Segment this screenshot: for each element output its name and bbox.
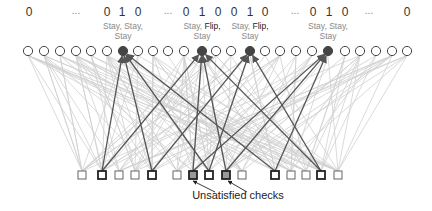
active-check-node: [317, 171, 325, 179]
variable-node: [355, 46, 364, 55]
ellipsis-label: ...: [72, 5, 80, 16]
tanner-edge: [107, 56, 135, 171]
stay-action: Stay,: [124, 21, 143, 31]
stay-action: Stay,: [103, 21, 124, 31]
check-node: [238, 171, 246, 179]
variable-node: [86, 46, 95, 55]
active-check-node: [271, 171, 279, 179]
variable-node: [102, 46, 111, 55]
stay-action: Stay,: [231, 21, 252, 31]
variable-node: [307, 46, 316, 55]
variable-node: [340, 46, 349, 55]
bit-value-label: 0: [262, 5, 269, 19]
action-labels-row: Stay, Stay,StayStay, Flip,StayStay, Flip…: [103, 21, 348, 41]
selected-variable-node: [245, 46, 254, 55]
selected-variable-node: [197, 46, 206, 55]
bit-value-label: 0: [135, 5, 142, 19]
variable-node: [148, 46, 157, 55]
variable-node: [71, 46, 80, 55]
variable-node: [39, 46, 48, 55]
variable-node: [260, 46, 269, 55]
action-label-line2: Stay: [319, 31, 337, 41]
action-label-line2: Stay: [193, 31, 211, 41]
check-node: [173, 171, 181, 179]
variable-node: [371, 46, 380, 55]
variable-node: [226, 46, 235, 55]
stay-action: Stay,: [183, 21, 204, 31]
flip-action: Flip,: [253, 21, 269, 31]
bit-value-label: 0: [215, 5, 222, 19]
flip-action: Flip,: [205, 21, 221, 31]
tanner-graph-diagram: 0...010...010010...010...0 Stay, Stay,St…: [0, 0, 432, 211]
variable-node: [275, 46, 284, 55]
check-node: [334, 171, 342, 179]
check-nodes-row: [78, 171, 342, 179]
variable-node: [387, 46, 396, 55]
bit-value-label: 0: [183, 5, 190, 19]
check-node: [131, 171, 139, 179]
variable-nodes-row: [23, 46, 411, 55]
action-label-line2: Stay: [114, 31, 132, 41]
tanner-edge: [306, 56, 345, 171]
selected-variable-node: [323, 46, 332, 55]
action-label-line1: Stay, Stay,: [308, 21, 348, 31]
bit-labels-row: 0...010...010010...010...0: [26, 5, 411, 19]
action-label-line1: Stay, Flip,: [231, 21, 268, 31]
stay-action: Stay,: [329, 21, 348, 31]
ellipsis-label: ...: [291, 5, 299, 16]
variable-node: [133, 46, 142, 55]
light-edges-layer: [28, 56, 407, 171]
bit-value-label: 0: [342, 5, 349, 19]
bit-value-label: 0: [231, 5, 238, 19]
active-check-node: [148, 171, 156, 179]
variable-node: [402, 46, 411, 55]
bit-value-label: 1: [199, 5, 206, 19]
tanner-edge: [28, 56, 242, 171]
action-label-line1: Stay, Stay,: [103, 21, 143, 31]
bit-value-label: 0: [104, 5, 111, 19]
tanner-edge: [44, 56, 193, 171]
check-node: [115, 171, 123, 179]
variable-node: [23, 46, 32, 55]
check-node: [302, 171, 310, 179]
bit-value-label: 1: [247, 5, 254, 19]
action-label-line1: Stay, Flip,: [183, 21, 220, 31]
variable-node: [211, 46, 220, 55]
unsatisfied-checks-caption: Unsatisfied checks: [192, 189, 284, 201]
stay-action: Stay,: [308, 21, 329, 31]
action-label-line2: Stay: [241, 31, 259, 41]
tanner-edge: [44, 56, 102, 171]
bit-value-label: 1: [119, 5, 126, 19]
bit-value-label: 0: [26, 5, 33, 19]
variable-node: [163, 46, 172, 55]
active-check-node: [98, 171, 106, 179]
unsatisfied-check-node: [189, 171, 197, 179]
variable-node: [179, 46, 188, 55]
ellipsis-label: ...: [365, 5, 373, 16]
check-node: [287, 171, 295, 179]
bit-value-label: 0: [310, 5, 317, 19]
unsatisfied-check-node: [222, 171, 230, 179]
tanner-edge: [193, 56, 296, 171]
unsatisfied-checks-annotation: Unsatisfied checks: [192, 181, 284, 201]
ellipsis-label: ...: [164, 5, 172, 16]
variable-node: [291, 46, 300, 55]
variable-node: [55, 46, 64, 55]
active-check-node: [205, 171, 213, 179]
check-node: [78, 171, 86, 179]
bit-value-label: 1: [326, 5, 333, 19]
bit-value-label: 0: [404, 5, 411, 19]
selected-variable-node: [118, 46, 127, 55]
